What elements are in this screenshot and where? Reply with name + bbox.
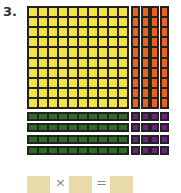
one-square <box>160 112 169 121</box>
tens-row <box>27 135 129 144</box>
one-square <box>131 146 140 155</box>
one-square <box>141 146 150 155</box>
one-square <box>150 135 159 144</box>
answer-box-2[interactable] <box>69 176 92 193</box>
tens-column <box>160 6 169 109</box>
one-square <box>160 135 169 144</box>
tens-column <box>150 6 159 109</box>
tens-column <box>141 6 150 109</box>
one-square <box>141 135 150 144</box>
answer-box-3[interactable] <box>110 176 133 193</box>
tens-row <box>27 112 129 121</box>
tens-column <box>131 6 140 109</box>
one-square <box>131 112 140 121</box>
one-square <box>150 112 159 121</box>
hundred-square <box>27 6 129 109</box>
one-square <box>150 146 159 155</box>
one-square <box>131 135 140 144</box>
tens-row <box>27 123 129 132</box>
one-square <box>141 112 150 121</box>
one-square <box>131 123 140 132</box>
problem-number: 3. <box>3 4 17 19</box>
equals-sign: = <box>96 175 107 190</box>
one-square <box>141 123 150 132</box>
times-sign: × <box>55 175 66 190</box>
answer-box-1[interactable] <box>27 176 50 193</box>
tens-row <box>27 146 129 155</box>
one-square <box>150 123 159 132</box>
one-square <box>160 146 169 155</box>
one-square <box>160 123 169 132</box>
